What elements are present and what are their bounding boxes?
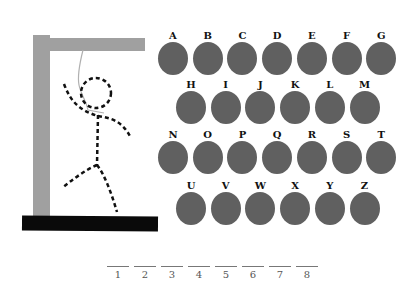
letter-disc-icon <box>297 141 327 174</box>
slot-number: 8 <box>304 269 310 280</box>
letter-disc-icon <box>158 141 188 174</box>
letter-label: E <box>297 30 327 42</box>
letter-button-f[interactable]: F <box>332 30 362 76</box>
slot-number: 1 <box>115 269 121 280</box>
letter-label: P <box>227 129 257 141</box>
letter-disc-icon <box>366 141 396 174</box>
letter-label: Z <box>350 180 380 192</box>
slot-underline <box>242 266 264 267</box>
letter-disc-icon <box>227 141 257 174</box>
letter-button-p[interactable]: P <box>227 129 257 175</box>
letter-button-m[interactable]: M <box>350 79 380 125</box>
letter-button-x[interactable]: X <box>280 180 310 226</box>
letter-label: I <box>211 79 241 91</box>
letter-label: Q <box>262 129 292 141</box>
hangman-figure <box>0 0 170 240</box>
letter-button-s[interactable]: S <box>332 129 362 175</box>
slot-number: 7 <box>277 269 283 280</box>
slot-underline <box>161 266 183 267</box>
letter-button-z[interactable]: Z <box>350 180 380 226</box>
word-slot: 5 <box>215 266 237 280</box>
letter-button-y[interactable]: Y <box>315 180 345 226</box>
slot-number: 5 <box>223 269 229 280</box>
letter-label: G <box>366 30 396 42</box>
letter-disc-icon <box>193 42 223 75</box>
slot-underline <box>215 266 237 267</box>
word-slot: 3 <box>161 266 183 280</box>
word-slot: 7 <box>269 266 291 280</box>
left-leg-icon <box>62 165 97 188</box>
letter-disc-icon <box>245 91 275 124</box>
word-slot: 4 <box>188 266 210 280</box>
letter-button-b[interactable]: B <box>193 30 223 76</box>
letter-label: L <box>315 79 345 91</box>
letter-button-k[interactable]: K <box>280 79 310 125</box>
letter-button-c[interactable]: C <box>227 30 257 76</box>
letter-label: F <box>332 30 362 42</box>
letter-button-d[interactable]: D <box>262 30 292 76</box>
slot-underline <box>107 266 129 267</box>
letter-button-n[interactable]: N <box>158 129 188 175</box>
letter-button-h[interactable]: H <box>176 79 206 125</box>
letter-disc-icon <box>332 141 362 174</box>
letter-disc-icon <box>176 192 206 225</box>
letter-label: S <box>332 129 362 141</box>
word-slot: 6 <box>242 266 264 280</box>
letter-label: A <box>158 30 188 42</box>
letter-button-a[interactable]: A <box>158 30 188 76</box>
letter-label: W <box>245 180 275 192</box>
letter-disc-icon <box>262 141 292 174</box>
letter-disc-icon <box>315 192 345 225</box>
letter-button-u[interactable]: U <box>176 180 206 226</box>
letter-label: M <box>350 79 380 91</box>
letter-disc-icon <box>280 192 310 225</box>
letter-label: J <box>245 79 275 91</box>
letter-button-j[interactable]: J <box>245 79 275 125</box>
letter-label: T <box>366 129 396 141</box>
slot-underline <box>296 266 318 267</box>
letter-button-g[interactable]: G <box>366 30 396 76</box>
slot-number: 6 <box>250 269 256 280</box>
slot-underline <box>134 266 156 267</box>
slot-number: 2 <box>142 269 148 280</box>
letter-disc-icon <box>176 91 206 124</box>
right-leg-icon <box>97 165 117 212</box>
letter-button-e[interactable]: E <box>297 30 327 76</box>
rope-icon <box>78 50 104 113</box>
letter-label: U <box>176 180 206 192</box>
letter-label: Y <box>315 180 345 192</box>
letter-button-t[interactable]: T <box>366 129 396 175</box>
letter-disc-icon <box>158 42 188 75</box>
word-slot: 2 <box>134 266 156 280</box>
word-slot: 1 <box>107 266 129 280</box>
slot-underline <box>269 266 291 267</box>
letter-disc-icon <box>332 42 362 75</box>
letter-label: K <box>280 79 310 91</box>
letter-disc-icon <box>211 91 241 124</box>
letter-button-w[interactable]: W <box>245 180 275 226</box>
letter-label: N <box>158 129 188 141</box>
letter-button-q[interactable]: Q <box>262 129 292 175</box>
letter-button-o[interactable]: O <box>193 129 223 175</box>
letter-label: H <box>176 79 206 91</box>
letter-disc-icon <box>245 192 275 225</box>
letter-button-v[interactable]: V <box>211 180 241 226</box>
letter-button-l[interactable]: L <box>315 79 345 125</box>
letter-label: V <box>211 180 241 192</box>
letter-button-i[interactable]: I <box>211 79 241 125</box>
letter-disc-icon <box>366 42 396 75</box>
letter-label: R <box>297 129 327 141</box>
letter-disc-icon <box>193 141 223 174</box>
word-slot: 8 <box>296 266 318 280</box>
letter-disc-icon <box>227 42 257 75</box>
letter-disc-icon <box>350 192 380 225</box>
letter-label: X <box>280 180 310 192</box>
letter-disc-icon <box>211 192 241 225</box>
letter-button-r[interactable]: R <box>297 129 327 175</box>
letter-label: C <box>227 30 257 42</box>
letter-disc-icon <box>350 91 380 124</box>
slot-number: 3 <box>169 269 175 280</box>
letter-disc-icon <box>315 91 345 124</box>
slot-number: 4 <box>196 269 202 280</box>
letter-label: D <box>262 30 292 42</box>
